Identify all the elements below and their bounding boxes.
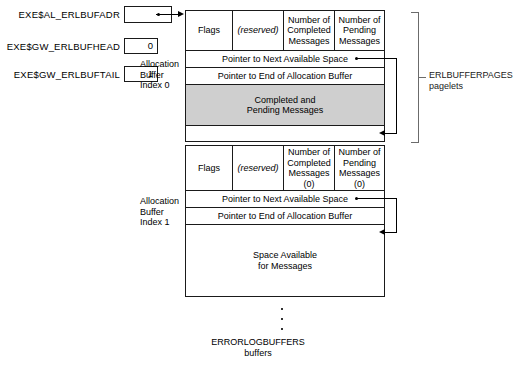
block0-ptr-arrow-head (379, 130, 385, 136)
erlbufferpages-line2: pagelets (429, 81, 513, 92)
erlbufhead-value-box: 0 (124, 38, 158, 54)
erlbufadr-arrow-line (156, 14, 180, 15)
block0-end-of-buffer-row: Pointer to End of Allocation Buffer (186, 68, 384, 84)
erlbufferpages-label: ERLBUFFERPAGES pagelets (429, 70, 513, 92)
alloc1-line3: Index 1 (140, 217, 179, 228)
block1-reserved-label: (reserved) (237, 163, 278, 174)
alloc0-line1: Allocation (140, 59, 179, 70)
block1-end-ptr-label: Pointer to End of Allocation Buffer (218, 211, 352, 222)
block0-reserved-label: (reserved) (237, 25, 278, 36)
block1-flags-cell: Flags (186, 146, 232, 190)
block1-ptr-arrow-head (379, 229, 385, 235)
block0-ptr-seg-v (396, 58, 397, 133)
block0-completed-line1: Number of (288, 15, 330, 26)
erlbufferpages-bracket-top-tick (411, 12, 419, 13)
block0-completed-line2: Completed (287, 25, 331, 36)
block0-pending-line1: Number of (338, 15, 380, 26)
block0-next-ptr-label: Pointer to Next Available Space (222, 54, 348, 65)
block0-free-space-row (186, 126, 384, 141)
alloc1-line1: Allocation (140, 196, 179, 207)
block1-pending-value: (0) (354, 179, 365, 190)
alloc-buffer-index-0-caption: Allocation Buffer Index 0 (140, 59, 179, 91)
block1-ptr-seg-v (396, 198, 397, 232)
ellipsis-dot-2 (281, 318, 283, 320)
block1-completed-line2: Completed (287, 158, 331, 169)
alloc-buffer-index-1-caption: Allocation Buffer Index 1 (140, 196, 179, 228)
erlbufferpages-bracket-bottom-tick (411, 142, 419, 143)
block0-pending-line3: Messages (339, 36, 380, 47)
block1-ptr-seg-h-top (357, 198, 397, 199)
erlbufferpages-bracket-mid-tick (418, 77, 426, 78)
block0-pending-cell: Number of Pending Messages (335, 11, 384, 50)
block1-next-ptr-label: Pointer to Next Available Space (222, 194, 348, 205)
block0-messages-line2: Pending Messages (247, 105, 324, 116)
errorlogbuffers-line2: buffers (2, 348, 514, 359)
erlbufadr-arrow-head (178, 11, 184, 17)
block1-end-of-buffer-row: Pointer to End of Allocation Buffer (186, 208, 384, 224)
var-label-erlbufhead: EXE$GW_ERLBUFHEAD (4, 41, 120, 53)
diagram-canvas: EXE$AL_ERLBUFADR EXE$GW_ERLBUFHEAD 0 EXE… (0, 0, 514, 370)
block0-messages-line1: Completed and (254, 95, 315, 106)
block0-pending-line2: Pending (343, 25, 376, 36)
block1-pending-line3: Messages (339, 168, 380, 179)
block0-ptr-seg-h-top (357, 58, 397, 59)
block0-end-ptr-label: Pointer to End of Allocation Buffer (218, 71, 352, 82)
alloc0-line2: Buffer (140, 70, 179, 81)
block1-completed-line3: Messages (288, 168, 329, 179)
block1-space-line1: Space Available (253, 250, 317, 261)
block1-completed-line1: Number of (288, 147, 330, 158)
block1-ptr-seg-h-bottom (384, 232, 397, 233)
erlbufferpages-line1: ERLBUFFERPAGES (429, 70, 513, 81)
block1-completed-value: (0) (304, 179, 315, 190)
block1-pending-cell: Number of Pending Messages (0) (335, 146, 384, 190)
ellipsis-dot-1 (281, 308, 283, 310)
continuation-ellipsis (280, 308, 284, 330)
block1-reserved-cell: (reserved) (233, 146, 283, 190)
var-label-erlbufadr: EXE$AL_ERLBUFADR (8, 9, 120, 21)
block0-completed-cell: Number of Completed Messages (284, 11, 334, 50)
block0-messages-label-group: Completed and Pending Messages (186, 85, 384, 125)
block0-completed-line3: Messages (288, 36, 329, 47)
block1-flags-label: Flags (198, 163, 220, 174)
block0-flags-cell: Flags (186, 11, 232, 50)
errorlogbuffers-line1: ERRORLOGBUFFERS (2, 337, 514, 348)
ellipsis-dot-3 (281, 328, 283, 330)
block1-space-line2: for Messages (258, 261, 312, 272)
block1-completed-cell: Number of Completed Messages (0) (284, 146, 334, 190)
block0-reserved-cell: (reserved) (233, 11, 283, 50)
block0-ptr-seg-h-bottom (384, 133, 397, 134)
errorlogbuffers-caption: ERRORLOGBUFFERS buffers (0, 337, 514, 359)
block1-pending-line1: Number of (338, 147, 380, 158)
var-label-erlbuftail: EXE$GW_ERLBUFTAIL (6, 69, 120, 81)
alloc1-line2: Buffer (140, 207, 179, 218)
alloc0-line3: Index 0 (140, 80, 179, 91)
block1-space-available-region: Space Available for Messages (186, 225, 384, 296)
block0-flags-label: Flags (198, 25, 220, 36)
block1-pending-line2: Pending (343, 158, 376, 169)
